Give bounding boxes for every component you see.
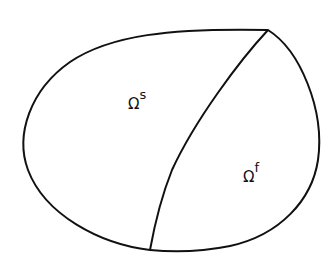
interface-boundary [150, 30, 268, 250]
outer-boundary [23, 30, 319, 252]
domain-outline [0, 0, 332, 261]
omega-s-label: Ωs [128, 92, 146, 112]
domain-diagram: Ωs Ωf [0, 0, 332, 261]
omega-f-label: Ωf [243, 165, 259, 185]
